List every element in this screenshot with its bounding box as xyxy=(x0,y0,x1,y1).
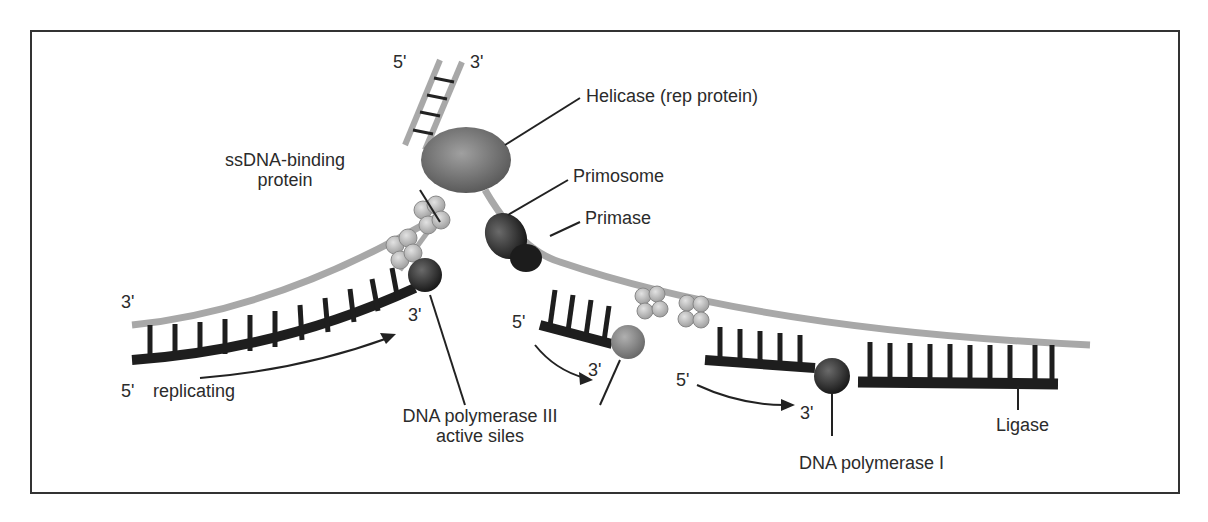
label-ligase: Ligase xyxy=(996,415,1049,435)
replication-fork-illustration xyxy=(0,0,1208,522)
dna-polymerase-iii-lagging-icon xyxy=(611,325,645,359)
lagging-template-strand xyxy=(485,190,1090,345)
label-leading-3prime: 3' xyxy=(121,292,134,312)
label-leading-5prime: 5' xyxy=(121,381,134,401)
label-top-3prime: 3' xyxy=(470,52,483,72)
label-top-5prime: 5' xyxy=(393,52,406,72)
label-leading-new-3prime: 3' xyxy=(408,305,421,325)
label-okazaki1-5prime: 5' xyxy=(512,312,525,332)
label-primosome: Primosome xyxy=(573,166,664,186)
helicase-icon xyxy=(421,127,511,193)
label-dna-polymerase-i: DNA polymerase I xyxy=(799,453,944,473)
dna-polymerase-iii-leading-icon xyxy=(408,258,442,292)
label-okazaki1-3prime: 3' xyxy=(588,360,601,380)
label-helicase: Helicase (rep protein) xyxy=(586,86,758,106)
label-dna-polymerase-iii: DNA polymerase III active siles xyxy=(375,406,585,446)
dna-polymerase-i-icon xyxy=(814,358,850,394)
label-okazaki2-3prime: 3' xyxy=(800,403,813,423)
label-okazaki2-5prime: 5' xyxy=(676,370,689,390)
ssb-protein-icon xyxy=(386,196,450,269)
label-ssdna-binding-protein: ssDNA-binding protein xyxy=(215,150,355,190)
label-primase: Primase xyxy=(585,208,651,228)
primase-icon xyxy=(510,244,542,272)
label-replicating: replicating xyxy=(153,381,235,401)
